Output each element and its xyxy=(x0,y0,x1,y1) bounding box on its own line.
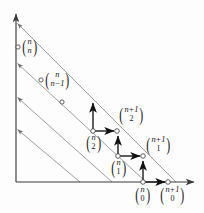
label-n-plus-1-choose-0: ( n+1 0 ) xyxy=(159,186,186,203)
axes xyxy=(16,14,194,182)
binom-bottom: n−1 xyxy=(51,80,65,89)
label-n-choose-n: ( n n ) xyxy=(21,38,38,55)
left-paren-icon: ( xyxy=(45,72,49,88)
left-paren-icon: ( xyxy=(86,135,90,151)
node-n-plus-1-choose-1 xyxy=(141,154,146,159)
left-paren-icon: ( xyxy=(160,187,164,203)
binom-bottom: 1 xyxy=(156,145,160,153)
right-paren-icon: ) xyxy=(167,137,171,153)
label-n-choose-n-minus-1: ( n n−1 ) xyxy=(44,71,71,88)
right-paren-icon: ) xyxy=(122,160,126,176)
right-paren-icon: ) xyxy=(33,39,37,55)
left-paren-icon: ( xyxy=(119,107,123,123)
right-paren-icon: ) xyxy=(97,135,101,151)
binom-bottom: 1 xyxy=(117,168,121,176)
label-n-choose-2: ( n 2 ) xyxy=(85,134,102,151)
right-paren-icon: ) xyxy=(181,187,185,203)
node-unlabelled xyxy=(60,100,64,104)
diagonal-line-0 xyxy=(18,24,177,183)
binom-bottom: 0 xyxy=(170,195,174,203)
diagram-canvas xyxy=(0,0,204,213)
left-paren-icon: ( xyxy=(146,137,150,153)
binom-bottom: 2 xyxy=(92,143,96,151)
node-n-plus-1-choose-2 xyxy=(115,129,120,134)
binom-bottom: 0 xyxy=(141,195,145,203)
binomial-lattice-figure: ( n n ) ( n n−1 ) ( n+1 2 ) ( n 2 ) ( n+… xyxy=(0,0,204,213)
diagonal-lines xyxy=(18,24,177,183)
left-paren-icon: ( xyxy=(111,160,115,176)
node-n-choose-0 xyxy=(141,180,146,185)
left-paren-icon: ( xyxy=(135,187,139,203)
label-n-plus-1-choose-2: ( n+1 2 ) xyxy=(118,106,145,123)
node-n-choose-n xyxy=(16,45,20,49)
right-paren-icon: ) xyxy=(66,72,70,88)
binom-bottom: 2 xyxy=(129,115,133,123)
binom-bottom: n xyxy=(28,47,32,56)
label-n-choose-1: ( n 1 ) xyxy=(110,159,127,176)
node-n-plus-1-choose-0 xyxy=(166,180,171,185)
right-paren-icon: ) xyxy=(140,107,144,123)
label-n-plus-1-choose-1: ( n+1 1 ) xyxy=(145,136,172,153)
label-n-choose-0: ( n 0 ) xyxy=(134,186,151,203)
left-paren-icon: ( xyxy=(22,39,26,55)
node-n-choose-n-1 xyxy=(39,78,43,82)
diagonal-line-3 xyxy=(18,130,81,183)
right-paren-icon: ) xyxy=(146,187,150,203)
